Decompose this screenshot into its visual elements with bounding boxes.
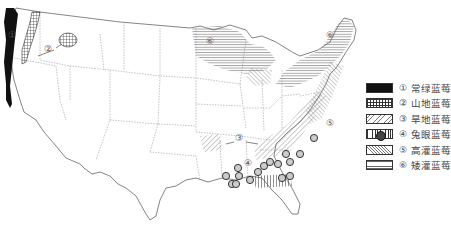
diagonal-swatch-icon <box>366 114 393 124</box>
horizontal-lines-swatch-icon <box>366 160 393 170</box>
legend-number: ④ <box>398 129 408 139</box>
legend-item-evergreen: ① 常绿蓝莓 <box>366 81 451 95</box>
legend-item-lowbush: ⑥ 矮灌蓝莓 <box>366 158 451 172</box>
region-highbush-michigan <box>246 68 272 86</box>
solid-black-swatch-icon <box>366 83 393 93</box>
legend-item-dryland: ③ 旱地蓝莓 <box>366 112 451 126</box>
region-mountain-west <box>22 12 40 64</box>
rabbiteye-swatch-icon <box>366 129 393 139</box>
region-dryland-west <box>200 134 222 152</box>
legend-label: 常绿蓝莓 <box>411 81 451 95</box>
legend-item-highbush: ⑤ 高灌蓝莓 <box>366 143 451 157</box>
svg-text:⑤: ⑤ <box>326 118 334 128</box>
legend-number: ① <box>398 83 408 93</box>
legend-number: ② <box>398 98 408 108</box>
diagonal-back-swatch-icon <box>366 145 393 155</box>
region-lowbush-northeast <box>276 18 354 88</box>
legend-label: 高灌蓝莓 <box>411 143 451 157</box>
svg-text:①: ① <box>8 30 16 40</box>
region-evergreen <box>4 8 18 108</box>
svg-text:③: ③ <box>235 133 243 143</box>
legend-number: ⑥ <box>398 160 408 170</box>
legend-item-rabbiteye: ④ 兔眼蓝莓 <box>366 127 451 141</box>
svg-text:④: ④ <box>244 158 252 168</box>
legend-label: 旱地蓝莓 <box>411 112 451 126</box>
legend-label: 兔眼蓝莓 <box>411 127 451 141</box>
legend-label: 山地蓝莓 <box>411 96 451 110</box>
legend-number: ⑤ <box>398 145 408 155</box>
legend-number: ③ <box>398 114 408 124</box>
svg-text:⑥: ⑥ <box>206 36 214 46</box>
legend-item-mountain: ② 山地蓝莓 <box>366 96 451 110</box>
region-mountain-east <box>59 33 77 47</box>
legend-label: 矮灌蓝莓 <box>411 158 451 172</box>
region-lowbush-midwest <box>192 26 276 74</box>
grid-swatch-icon <box>366 98 393 108</box>
svg-text:⑥: ⑥ <box>326 30 334 40</box>
